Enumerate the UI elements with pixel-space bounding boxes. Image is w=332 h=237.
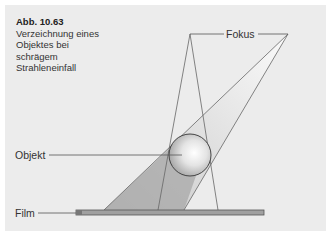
caption-line: Strahleneinfall	[16, 62, 99, 74]
object-label: Objekt	[15, 149, 45, 161]
caption-line: schrägem	[16, 51, 99, 63]
film-label: Film	[15, 207, 35, 219]
caption-line: Verzeichnung eines	[16, 28, 99, 40]
caption-line: Objektes bei	[16, 39, 99, 51]
figure-caption: Abb. 10.63 Verzeichnung eines Objektes b…	[16, 16, 99, 74]
film-strip	[76, 210, 264, 215]
diagram-figure: Abb. 10.63 Verzeichnung eines Objektes b…	[0, 0, 332, 237]
figure-number: Abb. 10.63	[16, 16, 99, 28]
focus-label: Fokus	[226, 28, 255, 40]
